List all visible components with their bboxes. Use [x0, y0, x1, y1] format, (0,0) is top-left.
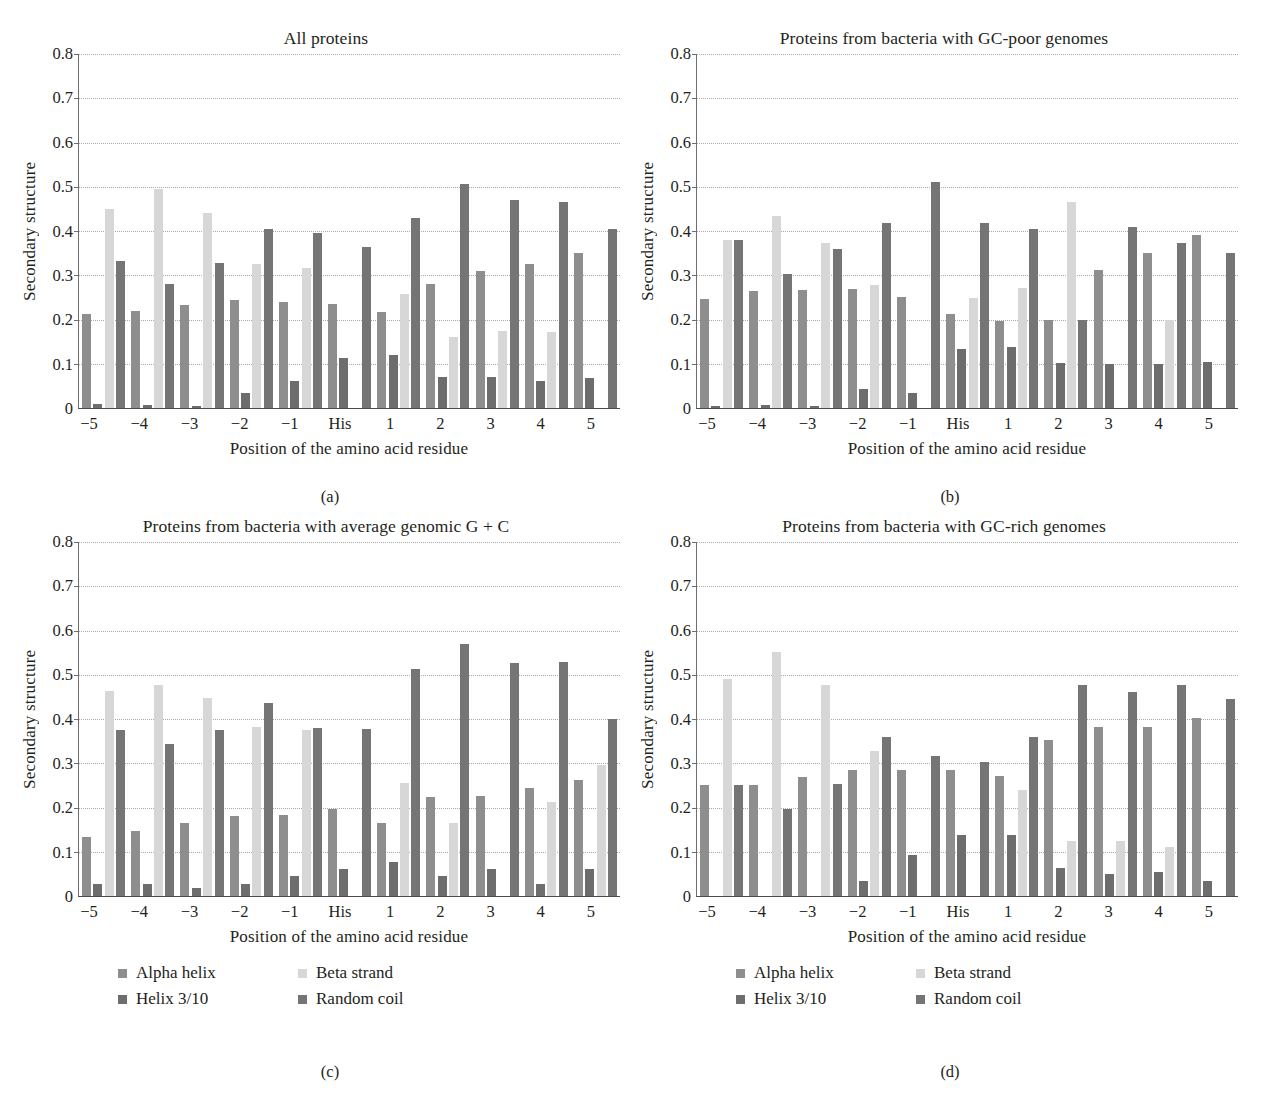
bar [105, 691, 114, 896]
legend-label-beta-strand: Beta strand [316, 963, 393, 983]
bar [377, 312, 386, 408]
x-tick-label: −1 [281, 414, 299, 434]
panel-c-plot-area [78, 542, 620, 897]
bar-group [943, 54, 992, 408]
bar [192, 406, 201, 408]
bar [411, 669, 420, 896]
bar-group [1091, 542, 1140, 896]
bar [969, 298, 978, 408]
bar [377, 823, 386, 896]
bar [897, 770, 906, 896]
y-tick-label: 0.1 [52, 843, 73, 863]
bar [328, 304, 337, 408]
bar [980, 223, 989, 408]
legend-item-alpha-helix: Alpha helix [118, 963, 298, 983]
bar [438, 876, 447, 896]
bar [734, 240, 743, 408]
legend-item-random-coil: Random coil [916, 989, 1116, 1009]
bar [1067, 202, 1076, 408]
bar-group [276, 54, 325, 408]
panel-b-y-ticks: 0.80.70.60.50.40.30.20.10 [660, 54, 696, 409]
x-tick-label: −5 [80, 902, 98, 922]
bar-group [571, 54, 620, 408]
x-tick-label: −2 [231, 902, 249, 922]
bar [105, 209, 114, 408]
y-tick-label: 0.2 [670, 798, 691, 818]
y-tick-label: 0.6 [670, 621, 691, 641]
panel-d-y-ticks: 0.80.70.60.50.40.30.20.10 [660, 542, 696, 897]
panel-b-title: Proteins from bacteria with GC-poor geno… [636, 28, 1252, 48]
bar [1029, 229, 1038, 408]
y-tick-label: 0.5 [670, 665, 691, 685]
bar [154, 189, 163, 408]
bar [995, 321, 1004, 408]
bar [449, 823, 458, 896]
y-tick-label: 0.5 [52, 665, 73, 685]
bar [908, 393, 917, 408]
bar [574, 780, 583, 896]
bar [290, 381, 299, 408]
bar [203, 698, 212, 896]
legend-right: Alpha helix Beta strand Helix 3/10 Rando… [736, 960, 1116, 1012]
bar-group [795, 542, 844, 896]
bar [165, 744, 174, 896]
bar [1094, 270, 1103, 408]
bar [711, 406, 720, 408]
y-tick-label: 0.7 [670, 88, 691, 108]
bar [510, 200, 519, 408]
bar [859, 881, 868, 896]
bar [1029, 737, 1038, 896]
bar [810, 406, 819, 408]
legend-label-helix-3-10: Helix 3/10 [754, 989, 826, 1009]
legend-swatch-alpha-helix-icon [118, 969, 127, 978]
bar [400, 294, 409, 408]
bar [1177, 243, 1186, 408]
bar [772, 652, 781, 896]
bar-group [943, 542, 992, 896]
bar [723, 679, 732, 896]
bar [821, 243, 830, 408]
bar [230, 816, 239, 896]
figure-root: All proteins Secondary structure 0.80.70… [0, 0, 1269, 1107]
x-tick-label: 4 [537, 902, 545, 922]
bar-group [795, 54, 844, 408]
bar [783, 274, 792, 408]
bar [143, 405, 152, 408]
bar [585, 378, 594, 408]
bar [203, 213, 212, 408]
legend-item-beta-strand: Beta strand [916, 963, 1116, 983]
panel-c-y-axis-label: Secondary structure [18, 542, 42, 897]
bar [848, 770, 857, 896]
y-tick-label: 0.3 [52, 266, 73, 286]
legend-swatch-alpha-helix-icon [736, 969, 745, 978]
bar [882, 223, 891, 408]
bar [264, 229, 273, 408]
bar [995, 776, 1004, 896]
bar [1018, 288, 1027, 408]
bar [1226, 253, 1235, 408]
x-tick-label: 1 [1004, 902, 1012, 922]
bar [313, 233, 322, 408]
bar [536, 884, 545, 896]
bar [559, 202, 568, 408]
bar [559, 662, 568, 896]
bar-group [1041, 542, 1090, 896]
x-tick-label: 1 [1004, 414, 1012, 434]
y-tick-label: 0.6 [670, 133, 691, 153]
y-tick-label: 0.2 [52, 310, 73, 330]
bar [131, 831, 140, 896]
bar-groups [79, 542, 620, 896]
bar [230, 300, 239, 408]
bar [180, 823, 189, 896]
bar [426, 797, 435, 896]
bar [859, 389, 868, 408]
bar [908, 855, 917, 896]
bar [362, 247, 371, 408]
bar [339, 869, 348, 896]
bar [279, 302, 288, 408]
bar-group [374, 54, 423, 408]
bar-group [1140, 542, 1189, 896]
bar [547, 802, 556, 896]
bar [833, 249, 842, 408]
bar [957, 349, 966, 408]
